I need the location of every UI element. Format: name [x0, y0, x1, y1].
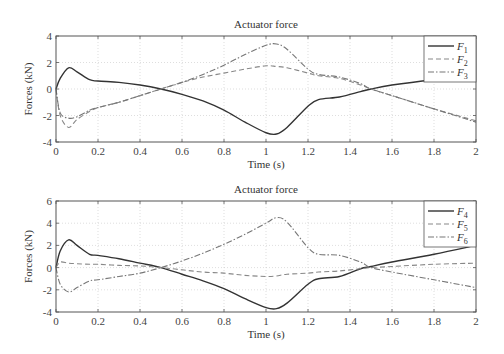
figure: Actuator force00.20.40.60.811.21.41.61.8… [0, 0, 504, 354]
y-tick-label: 0 [47, 262, 53, 274]
grid [56, 36, 476, 142]
y-tick-label: 6 [47, 195, 53, 207]
y-axis-label: Forces (kN) [22, 62, 35, 115]
x-tick-label: 1.2 [301, 145, 315, 157]
y-tick-label: 4 [47, 217, 53, 229]
x-tick-label: 1.2 [301, 315, 315, 327]
x-tick-label: 0.8 [217, 145, 231, 157]
x-tick-label: 0.6 [175, 315, 189, 327]
y-tick-label: -4 [43, 136, 53, 148]
x-tick-label: 1.6 [385, 145, 399, 157]
x-tick-label: 0 [53, 145, 59, 157]
x-tick-label: 1 [263, 315, 269, 327]
y-tick-label: -2 [43, 110, 52, 122]
x-tick-label: 1.8 [427, 315, 441, 327]
x-tick-label: 1 [263, 145, 269, 157]
chart-bottom: Actuator force00.20.40.60.811.21.41.61.8… [22, 183, 479, 341]
x-tick-label: 1.4 [343, 315, 357, 327]
y-tick-label: 4 [47, 30, 53, 42]
y-tick-label: 0 [47, 83, 53, 95]
x-tick-label: 0 [53, 315, 59, 327]
x-tick-label: 2 [473, 315, 479, 327]
x-tick-label: 0.4 [133, 145, 147, 157]
grid [56, 201, 476, 312]
chart-top: Actuator force00.20.40.60.811.21.41.61.8… [22, 18, 479, 171]
series-f4 [56, 240, 476, 309]
y-tick-label: -2 [43, 284, 52, 296]
x-tick-label: 0.2 [91, 315, 105, 327]
y-tick-label: 2 [47, 57, 53, 69]
y-tick-label: 2 [47, 239, 53, 251]
x-tick-label: 2 [473, 145, 479, 157]
axes-frame [56, 201, 476, 312]
x-axis-label: Time (s) [247, 158, 285, 171]
chart-title: Actuator force [234, 18, 298, 30]
x-tick-label: 0.8 [217, 315, 231, 327]
x-tick-label: 0.6 [175, 145, 189, 157]
y-axis-label: Forces (kN) [22, 230, 35, 283]
x-tick-label: 1.8 [427, 145, 441, 157]
legend: F1F2F3 [424, 36, 476, 82]
x-axis-label: Time (s) [247, 328, 285, 341]
x-tick-label: 0.4 [133, 315, 147, 327]
x-tick-label: 1.6 [385, 315, 399, 327]
chart-title: Actuator force [234, 183, 298, 195]
x-tick-label: 1.4 [343, 145, 357, 157]
y-tick-label: -4 [43, 306, 53, 318]
legend: F4F5F6 [424, 201, 476, 247]
x-tick-label: 0.2 [91, 145, 105, 157]
series-f1 [56, 68, 476, 135]
